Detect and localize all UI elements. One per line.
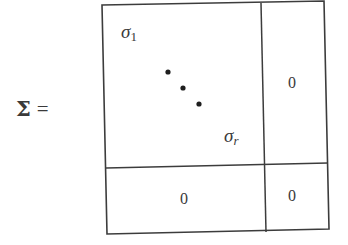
matrix-vertical-divider xyxy=(261,3,266,232)
sigma-r-subscript: r xyxy=(233,133,238,148)
top-right-zero-block: 0 xyxy=(288,75,296,91)
matrix-horizontal-divider xyxy=(106,163,328,168)
equation-lhs: Σ= xyxy=(16,98,49,120)
sigma-1-base: σ xyxy=(121,21,130,42)
sigma-r-entry: σr xyxy=(224,126,238,147)
sigma-r-base: σ xyxy=(224,125,233,146)
bottom-right-zero-block: 0 xyxy=(288,188,296,204)
bottom-left-zero-block: 0 xyxy=(180,191,188,207)
diagonal-dot-icon xyxy=(196,101,201,106)
sigma-1-subscript: 1 xyxy=(130,29,137,44)
sigma-1-entry: σ1 xyxy=(121,22,137,43)
diagonal-dot-icon xyxy=(180,85,185,90)
equals-sign: = xyxy=(37,97,49,121)
sigma-matrix-symbol: Σ xyxy=(16,96,31,121)
diagonal-dot-icon xyxy=(165,69,170,74)
block-matrix-diagram xyxy=(0,0,348,245)
